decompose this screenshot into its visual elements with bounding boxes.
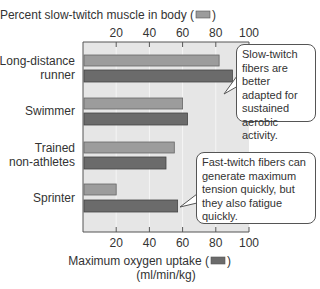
top-tick-label: 100 <box>239 26 259 40</box>
bar-oxygen-uptake <box>84 70 232 82</box>
top-axis-label-end: ) <box>212 8 216 22</box>
bottom-tick-label: 40 <box>143 236 157 250</box>
bottom-tick-label: 80 <box>209 236 223 250</box>
bar-slow-twitch <box>84 98 183 109</box>
annotation-fast-twitch: Fast-twitch fibers can generate maximum … <box>196 152 316 224</box>
annotation-fast-twitch-text: Fast-twitch fibers can generate maximum … <box>202 156 306 222</box>
category-label: Sprinter <box>33 191 75 205</box>
top-tick-label: 40 <box>143 26 157 40</box>
bar-slow-twitch <box>84 142 174 153</box>
category-label: Swimmer <box>25 104 75 118</box>
bar-slow-twitch <box>84 55 219 66</box>
top-tick-label: 20 <box>110 26 124 40</box>
bottom-tick-label: 100 <box>239 236 259 250</box>
bar-oxygen-uptake <box>84 113 188 125</box>
category-label: runner <box>40 68 75 82</box>
top-tick-label: 60 <box>176 26 190 40</box>
bar-slow-twitch <box>84 184 116 195</box>
bottom-axis-label: Maximum oxygen uptake ( <box>68 254 209 268</box>
top-tick-label: 80 <box>209 26 223 40</box>
top-axis-label: Percent slow-twitch muscle in body ( <box>0 8 194 22</box>
category-label: Trained <box>35 141 75 155</box>
bottom-tick-label: 20 <box>110 236 124 250</box>
bottom-axis-label-units: (ml/min/kg) <box>136 268 195 282</box>
bottom-axis-label-end: ) <box>227 254 231 268</box>
legend-swatch-slow-twitch <box>196 11 210 18</box>
bar-oxygen-uptake <box>84 157 166 169</box>
legend-swatch-oxygen <box>211 257 225 264</box>
category-label: Long-distance <box>0 54 75 68</box>
annotation-slow-twitch: Slow-twitch fibers are better adapted fo… <box>236 44 316 122</box>
bottom-tick-label: 60 <box>176 236 190 250</box>
bar-oxygen-uptake <box>84 200 178 212</box>
category-label: non-athletes <box>9 155 75 169</box>
